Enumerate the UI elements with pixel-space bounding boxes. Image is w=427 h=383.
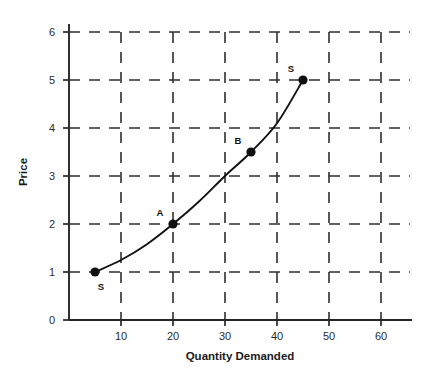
x-tick-label-10: 10: [115, 330, 127, 342]
y-tick-label-2: 2: [49, 218, 55, 230]
data-point-b-2: [246, 147, 255, 156]
y-tick-label-0: 0: [49, 314, 55, 326]
y-tick-label-5: 5: [49, 74, 55, 86]
y-tick-label-3: 3: [49, 170, 55, 182]
y-axis-title: Price: [17, 158, 29, 186]
chart-background: [0, 0, 427, 383]
data-point-label-s-0: S: [98, 281, 104, 292]
x-tick-label-60: 60: [375, 330, 387, 342]
y-tick-label-1: 1: [49, 266, 55, 278]
x-axis-title: Quantity Demanded: [186, 350, 295, 362]
data-point-s-0: [90, 267, 99, 276]
x-tick-label-40: 40: [271, 330, 283, 342]
y-tick-label-4: 4: [49, 122, 55, 134]
data-point-label-b-2: B: [235, 135, 242, 146]
data-point-label-s-3: S: [288, 63, 294, 74]
data-point-s-3: [298, 75, 307, 84]
y-tick-label-6: 6: [49, 26, 55, 38]
supply-curve-chart: 0123456 102030405060 SABS Quantity Deman…: [0, 0, 427, 383]
data-point-label-a-1: A: [157, 207, 164, 218]
x-tick-label-50: 50: [323, 330, 335, 342]
x-tick-label-30: 30: [219, 330, 231, 342]
data-point-a-1: [168, 219, 177, 228]
x-tick-label-20: 20: [167, 330, 179, 342]
